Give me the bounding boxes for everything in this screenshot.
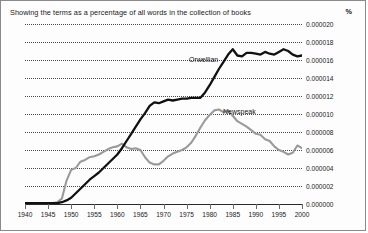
- y-axis-tick-label: 0.000020: [306, 21, 334, 28]
- x-axis-tick: [256, 204, 257, 209]
- x-axis-tick: [279, 204, 280, 209]
- y-axis-tick-label: 0.000002: [306, 183, 334, 190]
- x-axis-tick-label: 1985: [225, 211, 240, 218]
- y-axis-tick-label: 0.000006: [306, 147, 334, 154]
- y-axis-tick-label: 0.000018: [306, 39, 334, 46]
- series-label-newspeak: Newspeak: [223, 108, 256, 115]
- x-axis-tick: [48, 204, 49, 209]
- x-axis-tick-label: 1995: [272, 211, 287, 218]
- y-axis-tick-label: 0.000014: [306, 75, 334, 82]
- x-axis-tick: [233, 204, 234, 209]
- x-axis-tick-label: 1955: [87, 211, 102, 218]
- series-label-orwellian: Orwellian: [189, 56, 218, 63]
- x-axis-tick-label: 1945: [41, 211, 56, 218]
- line-newspeak: [25, 110, 302, 204]
- x-axis-tick: [25, 204, 26, 209]
- x-axis-tick-label: 1950: [64, 211, 79, 218]
- x-axis-tick-label: 1990: [248, 211, 263, 218]
- x-axis-tick: [302, 204, 303, 209]
- x-axis-tick: [210, 204, 211, 209]
- y-axis-tick-label: 0.000016: [306, 57, 334, 64]
- x-axis-tick: [94, 204, 95, 209]
- y-axis-tick-label: 0.000004: [306, 165, 334, 172]
- x-axis-tick-label: 2000: [295, 211, 310, 218]
- chart-frame: Showing the terms as a percentage of all…: [0, 0, 366, 231]
- y-axis-tick-label: 0.000000: [306, 201, 334, 208]
- x-axis-tick-label: 1965: [133, 211, 148, 218]
- chart-title: Showing the terms as a percentage of all…: [10, 8, 251, 17]
- x-axis-tick: [117, 204, 118, 209]
- x-axis-tick: [187, 204, 188, 209]
- y-axis-tick-label: 0.000008: [306, 129, 334, 136]
- x-axis-tick-label: 1975: [179, 211, 194, 218]
- x-axis-tick: [140, 204, 141, 209]
- x-axis-tick: [71, 204, 72, 209]
- series-lines: [25, 24, 302, 204]
- x-axis-tick-label: 1960: [110, 211, 125, 218]
- y-axis-unit-label: %: [346, 7, 353, 16]
- y-axis-tick-label: 0.000010: [306, 111, 334, 118]
- x-axis-tick-label: 1980: [202, 211, 217, 218]
- x-axis-tick-label: 1970: [156, 211, 171, 218]
- x-axis-tick: [164, 204, 165, 209]
- y-axis-tick-label: 0.000012: [306, 93, 334, 100]
- x-axis-tick-label: 1940: [18, 211, 33, 218]
